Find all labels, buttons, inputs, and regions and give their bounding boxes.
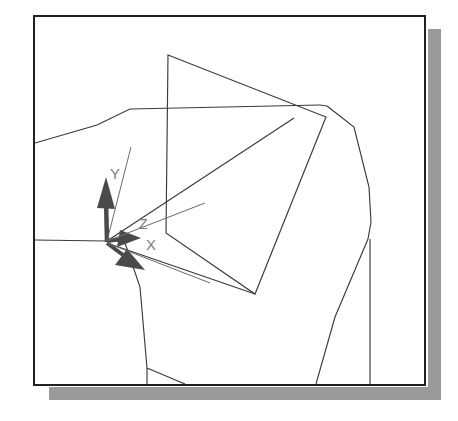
edge-outer-bottom-slant — [147, 368, 185, 384]
window-drop-shadow-right — [428, 29, 441, 400]
window-drop-shadow-bottom — [49, 387, 441, 400]
edge-interior-diagonal-lower — [107, 243, 255, 294]
edge-interior-diagonal-upper — [107, 118, 294, 241]
edge-outer-right-lower — [316, 239, 368, 384]
edge-outer-right-flank — [327, 106, 371, 239]
edge-tilted-face-quad — [166, 55, 326, 294]
edge-outer-left-upper — [35, 105, 320, 143]
viewport-figure: Y Z X — [0, 0, 458, 421]
model-wireframe-edges — [35, 55, 371, 384]
x-axis-label: X — [146, 236, 156, 253]
z-axis-label: Z — [138, 215, 147, 232]
axis-triad[interactable]: Y Z X — [97, 147, 210, 283]
model-viewport-frame[interactable]: Y Z X — [33, 15, 426, 386]
wireframe-model-canvas[interactable]: Y Z X — [35, 17, 424, 384]
edge-outer-top-ridge — [320, 105, 327, 106]
y-axis-label: Y — [110, 165, 120, 182]
